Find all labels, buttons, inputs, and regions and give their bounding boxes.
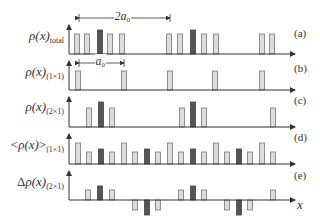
light-bar: [178, 34, 183, 54]
panel-e: [69, 171, 295, 215]
panel-d: [69, 134, 295, 164]
panel-a-tag: (a): [294, 27, 306, 39]
light-bar: [179, 190, 184, 200]
light-bar: [214, 143, 219, 164]
dimension-2a0-label: 2a0: [114, 9, 132, 24]
dark-bar: [237, 200, 242, 215]
light-bar: [270, 34, 275, 54]
dark-bar: [98, 30, 103, 54]
light-bar: [202, 190, 207, 200]
panel-e-ylabel: Δρ(x)(2×1): [17, 174, 64, 191]
light-bar: [85, 34, 90, 54]
light-bar: [225, 200, 230, 210]
dark-bar: [191, 30, 196, 54]
panel-d-ylabel: <ρ(x)>(1×1): [11, 137, 64, 154]
light-bar: [110, 190, 115, 200]
panel-e-tag: (e): [294, 169, 306, 181]
light-bar: [260, 71, 265, 90]
light-bar: [179, 152, 184, 164]
light-bar: [225, 152, 230, 164]
dark-bar: [191, 186, 196, 200]
panel-c: [69, 97, 295, 127]
light-bar: [76, 143, 81, 164]
dark-bar: [99, 149, 104, 164]
light-bar: [75, 34, 80, 54]
light-bar: [214, 34, 219, 54]
panel-a: [69, 25, 295, 54]
x-axis-label: x: [297, 197, 303, 213]
light-bar: [202, 34, 207, 54]
light-bar: [122, 143, 127, 164]
light-bar: [110, 152, 115, 164]
panel-d-tag: (d): [294, 131, 307, 143]
light-bar: [108, 34, 113, 54]
dark-bar: [145, 149, 150, 164]
light-bar: [202, 108, 207, 127]
panel-a-ylabel: ρ(x)total: [29, 28, 64, 45]
light-bar: [120, 34, 125, 54]
light-bar: [271, 190, 276, 200]
light-bar: [86, 190, 91, 200]
panel-c-ylabel: ρ(x)(2×1): [25, 99, 64, 116]
light-bar: [168, 71, 173, 90]
light-bar: [180, 108, 185, 127]
dark-bar: [145, 200, 150, 215]
light-bar: [122, 71, 127, 90]
panel-c-tag: (c): [294, 94, 306, 106]
light-bar: [156, 152, 161, 164]
light-bar: [260, 34, 265, 54]
light-bar: [133, 152, 138, 164]
dimension-a0-label: a0: [95, 54, 107, 69]
light-bar: [133, 200, 138, 210]
dark-bar: [99, 102, 104, 127]
light-bar: [271, 108, 276, 127]
dark-bar: [237, 149, 242, 164]
light-bar: [213, 71, 218, 90]
light-bar: [87, 152, 92, 164]
light-bar: [248, 152, 253, 164]
light-bar: [167, 34, 172, 54]
panel-b-ylabel: ρ(x)(1×1): [25, 64, 64, 81]
light-bar: [260, 143, 265, 164]
light-bar: [110, 108, 115, 127]
dark-bar: [191, 102, 196, 127]
dark-bar: [98, 186, 103, 200]
light-bar: [202, 152, 207, 164]
light-bar: [248, 200, 253, 210]
light-bar: [76, 71, 81, 90]
dark-bar: [191, 149, 196, 164]
light-bar: [168, 143, 173, 164]
light-bar: [156, 200, 161, 210]
panel-b-tag: (b): [294, 62, 307, 74]
light-bar: [87, 108, 92, 127]
light-bar: [271, 152, 276, 164]
